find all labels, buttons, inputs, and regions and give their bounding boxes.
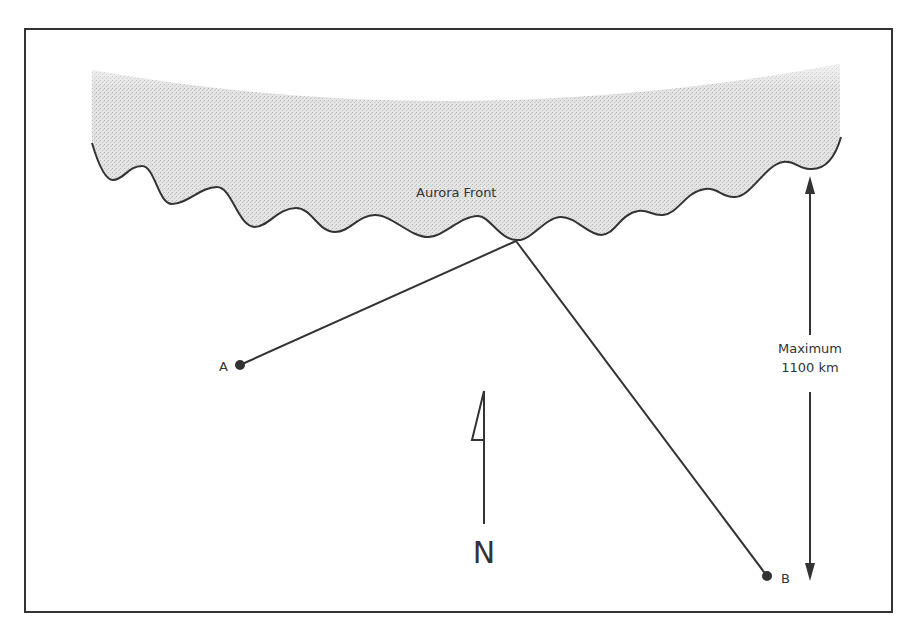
sightline-a xyxy=(240,241,516,365)
distance-label-line1: Maximum xyxy=(778,341,842,356)
point-a-marker xyxy=(235,360,245,370)
point-a: A xyxy=(219,359,245,374)
sightline-b xyxy=(516,241,767,576)
north-arrow: N xyxy=(472,391,495,570)
north-arrow-flag-icon xyxy=(472,391,484,440)
point-b-marker xyxy=(762,571,772,581)
aurora-sightline-diagram: Aurora Front A B Maximum 1100 km N xyxy=(0,0,906,626)
point-b: B xyxy=(762,571,790,586)
distance-label-line2: 1100 km xyxy=(781,360,838,375)
distance-indicator: Maximum 1100 km xyxy=(778,176,842,581)
north-label: N xyxy=(473,535,495,570)
point-b-label: B xyxy=(781,571,790,586)
arrow-up-icon xyxy=(805,176,815,194)
arrow-down-icon xyxy=(805,563,815,581)
aurora-region: Aurora Front xyxy=(92,64,841,240)
point-a-label: A xyxy=(219,359,228,374)
aurora-fade xyxy=(92,64,840,160)
aurora-front-label: Aurora Front xyxy=(416,185,496,200)
